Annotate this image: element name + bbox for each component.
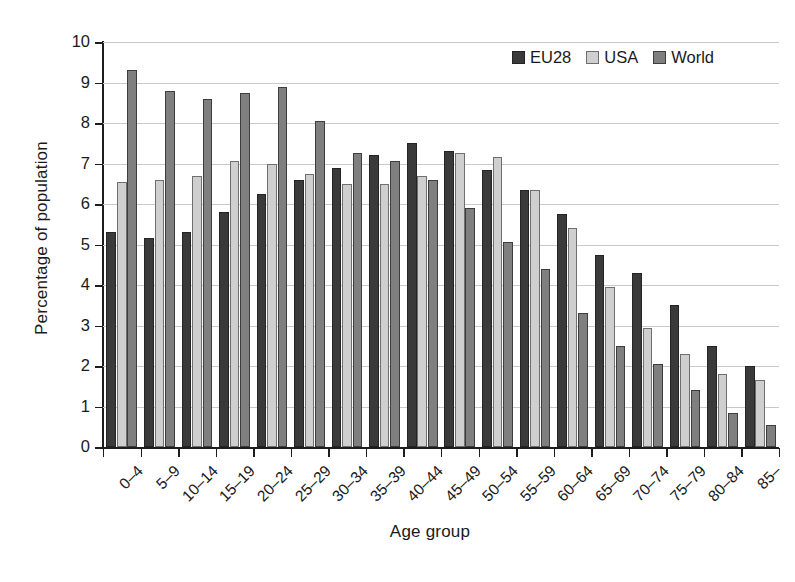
- bar-usa-15[interactable]: [680, 354, 690, 447]
- bar-world-16[interactable]: [728, 413, 738, 447]
- bar-usa-3[interactable]: [230, 161, 240, 447]
- x-tick-mark: [591, 448, 592, 457]
- x-tick-mark: [253, 448, 254, 457]
- bar-eu28-15[interactable]: [670, 305, 680, 447]
- bar-eu28-9[interactable]: [444, 151, 454, 447]
- bar-eu28-10[interactable]: [482, 170, 492, 447]
- y-tick-mark: [95, 83, 103, 85]
- bar-usa-9[interactable]: [455, 153, 465, 447]
- x-tick-label: 45–49: [441, 462, 484, 505]
- x-tick-mark: [366, 448, 367, 457]
- bar-usa-6[interactable]: [342, 184, 352, 447]
- y-tick-mark: [95, 42, 103, 44]
- y-tick-label: 4: [48, 275, 90, 294]
- bar-usa-0[interactable]: [117, 182, 127, 447]
- bar-world-15[interactable]: [691, 390, 701, 447]
- bar-eu28-4[interactable]: [257, 194, 267, 447]
- bar-world-10[interactable]: [503, 242, 513, 447]
- x-tick-mark: [479, 448, 480, 457]
- x-tick-label: 75–79: [667, 462, 710, 505]
- bar-usa-5[interactable]: [305, 174, 315, 447]
- bar-world-3[interactable]: [240, 93, 250, 447]
- x-tick-label: 50–54: [479, 462, 522, 505]
- bar-eu28-5[interactable]: [294, 180, 304, 447]
- bar-eu28-0[interactable]: [106, 232, 116, 447]
- bar-world-8[interactable]: [428, 180, 438, 447]
- bar-eu28-11[interactable]: [520, 190, 530, 447]
- x-tick-label: 25–29: [291, 462, 334, 505]
- x-tick-mark: [741, 448, 742, 457]
- bar-world-12[interactable]: [578, 313, 588, 447]
- bar-group: [557, 42, 588, 447]
- legend-item-world[interactable]: World: [653, 48, 714, 67]
- x-tick-mark: [291, 448, 292, 457]
- legend-item-eu28[interactable]: EU28: [512, 48, 571, 67]
- bar-eu28-13[interactable]: [595, 255, 605, 447]
- bar-group: [595, 42, 626, 447]
- x-axis-title: Age group: [100, 522, 760, 542]
- bar-world-1[interactable]: [165, 91, 175, 447]
- bar-group: [369, 42, 400, 447]
- bar-world-5[interactable]: [315, 121, 325, 447]
- bar-usa-16[interactable]: [718, 374, 728, 447]
- bar-world-7[interactable]: [390, 161, 400, 447]
- bar-world-2[interactable]: [203, 99, 213, 447]
- bar-world-11[interactable]: [541, 269, 551, 447]
- bar-chart-figure: Percentage of population Age group 10987…: [0, 0, 795, 582]
- y-tick-mark: [95, 204, 103, 206]
- legend-item-usa[interactable]: USA: [586, 48, 638, 67]
- chart-legend: EU28USAWorld: [512, 48, 714, 67]
- bar-group: [632, 42, 663, 447]
- bar-usa-12[interactable]: [568, 228, 578, 447]
- bar-world-13[interactable]: [616, 346, 626, 447]
- bar-world-17[interactable]: [766, 425, 776, 447]
- bar-world-14[interactable]: [653, 364, 663, 447]
- legend-swatch-icon: [653, 51, 666, 64]
- bar-usa-11[interactable]: [530, 190, 540, 447]
- x-tick-label: 5–9: [153, 462, 184, 493]
- x-tick-label: 40–44: [404, 462, 447, 505]
- bar-usa-13[interactable]: [605, 287, 615, 447]
- bar-usa-17[interactable]: [755, 380, 765, 447]
- bar-world-4[interactable]: [278, 87, 288, 447]
- bar-eu28-12[interactable]: [557, 214, 567, 447]
- bar-usa-2[interactable]: [192, 176, 202, 447]
- x-tick-mark: [629, 448, 630, 457]
- y-tick-mark: [95, 285, 103, 287]
- bar-eu28-7[interactable]: [369, 155, 379, 447]
- bar-usa-7[interactable]: [380, 184, 390, 447]
- bar-group: [670, 42, 701, 447]
- bar-usa-8[interactable]: [417, 176, 427, 447]
- bar-eu28-17[interactable]: [745, 366, 755, 447]
- x-tick-label: 85–: [754, 462, 785, 493]
- bar-eu28-8[interactable]: [407, 143, 417, 447]
- y-tick-label: 10: [48, 32, 90, 51]
- bar-world-6[interactable]: [353, 153, 363, 447]
- bar-group: [707, 42, 738, 447]
- bar-usa-14[interactable]: [643, 328, 653, 447]
- x-tick-mark: [403, 448, 404, 457]
- bar-eu28-3[interactable]: [219, 212, 229, 447]
- bar-group: [294, 42, 325, 447]
- x-tick-mark: [216, 448, 217, 457]
- bar-eu28-1[interactable]: [144, 238, 154, 447]
- bar-eu28-2[interactable]: [182, 232, 192, 447]
- bar-eu28-14[interactable]: [632, 273, 642, 447]
- x-tick-mark: [328, 448, 329, 457]
- bar-eu28-16[interactable]: [707, 346, 717, 447]
- x-tick-mark: [779, 448, 780, 457]
- bar-world-0[interactable]: [127, 70, 137, 447]
- bar-usa-10[interactable]: [493, 157, 503, 447]
- plot-area: [103, 42, 779, 447]
- bar-group: [520, 42, 551, 447]
- bar-group: [407, 42, 438, 447]
- y-tick-mark: [95, 164, 103, 166]
- bar-world-9[interactable]: [465, 208, 475, 447]
- bar-group: [332, 42, 363, 447]
- bar-eu28-6[interactable]: [332, 168, 342, 447]
- x-tick-mark: [516, 448, 517, 457]
- y-tick-label: 7: [48, 154, 90, 173]
- bar-usa-4[interactable]: [267, 164, 277, 448]
- bar-group: [106, 42, 137, 447]
- bar-usa-1[interactable]: [155, 180, 165, 447]
